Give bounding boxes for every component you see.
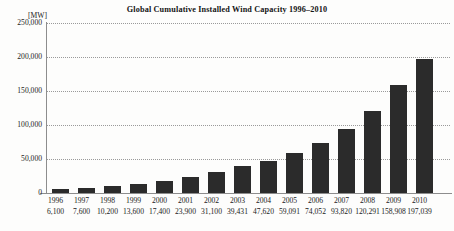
- bar: [390, 85, 407, 193]
- x-axis-category: 200339,431: [224, 195, 251, 217]
- x-axis-category: 2009158,908: [380, 195, 407, 217]
- bar: [234, 166, 251, 193]
- x-axis-year-label: 2004: [250, 195, 277, 206]
- x-axis-year-label: 1996: [42, 195, 69, 206]
- x-axis-year-label: 1998: [94, 195, 121, 206]
- x-axis-year-label: 2005: [276, 195, 303, 206]
- x-axis-labels: 19966,10019977,600199810,200199913,60020…: [47, 195, 450, 229]
- bar: [208, 172, 225, 193]
- x-axis-category: 200231,100: [198, 195, 225, 217]
- x-axis-line: [40, 193, 452, 194]
- x-axis-category: 2008120,291: [354, 195, 381, 217]
- x-axis-year-label: 1999: [120, 195, 147, 206]
- x-axis-value-label: 23,900: [172, 206, 199, 217]
- bar: [182, 177, 199, 193]
- x-axis-value-label: 93,820: [328, 206, 355, 217]
- x-axis-value-label: 13,600: [120, 206, 147, 217]
- x-axis-year-label: 2010: [406, 195, 433, 206]
- bar: [78, 188, 95, 193]
- x-axis-year-label: 2002: [198, 195, 225, 206]
- x-axis-value-label: 17,400: [146, 206, 173, 217]
- y-axis-tick-label: 50,000: [0, 155, 42, 163]
- x-axis-value-label: 10,200: [94, 206, 121, 217]
- x-axis-category: 200674,052: [302, 195, 329, 217]
- x-axis-category: 200017,400: [146, 195, 173, 217]
- x-axis-value-label: 197,039: [406, 206, 433, 217]
- x-axis-category: 199913,600: [120, 195, 147, 217]
- x-axis-value-label: 158,908: [380, 206, 407, 217]
- x-axis-year-label: 2007: [328, 195, 355, 206]
- x-axis-category: 19966,100: [42, 195, 69, 217]
- bar: [364, 111, 381, 193]
- x-axis-value-label: 31,100: [198, 206, 225, 217]
- y-axis-tick-label: 150,000: [0, 87, 42, 95]
- x-axis-category: 200123,900: [172, 195, 199, 217]
- bar: [156, 181, 173, 193]
- chart-page: Global Cumulative Installed Wind Capacit…: [0, 0, 454, 231]
- y-axis-tick-label: 250,000: [0, 19, 42, 27]
- bar: [286, 153, 303, 193]
- x-axis-year-label: 2000: [146, 195, 173, 206]
- x-axis-category: 200793,820: [328, 195, 355, 217]
- x-axis-value-label: 7,600: [68, 206, 95, 217]
- x-axis-year-label: 2001: [172, 195, 199, 206]
- x-axis-year-label: 2003: [224, 195, 251, 206]
- bar: [260, 161, 277, 193]
- x-axis-year-label: 1997: [68, 195, 95, 206]
- bar: [104, 186, 121, 193]
- x-axis-year-label: 2009: [380, 195, 407, 206]
- x-axis-category: 200559,091: [276, 195, 303, 217]
- chart-title: Global Cumulative Installed Wind Capacit…: [0, 5, 454, 14]
- y-axis-tick-label: 100,000: [0, 121, 42, 129]
- x-axis-category: 200447,620: [250, 195, 277, 217]
- bar: [338, 129, 355, 193]
- bar: [312, 143, 329, 193]
- x-axis-year-label: 2006: [302, 195, 329, 206]
- x-axis-value-label: 120,291: [354, 206, 381, 217]
- x-axis-category: 199810,200: [94, 195, 121, 217]
- x-axis-category: 19977,600: [68, 195, 95, 217]
- bar: [416, 59, 433, 193]
- bar: [52, 189, 69, 193]
- x-axis-year-label: 2008: [354, 195, 381, 206]
- x-axis-value-label: 6,100: [42, 206, 69, 217]
- x-axis-value-label: 47,620: [250, 206, 277, 217]
- y-axis-tick-label: 0: [0, 189, 42, 197]
- bars-layer: [47, 23, 450, 193]
- x-axis-value-label: 39,431: [224, 206, 251, 217]
- x-axis-value-label: 59,091: [276, 206, 303, 217]
- x-axis-value-label: 74,052: [302, 206, 329, 217]
- y-axis-tick-label: 200,000: [0, 53, 42, 61]
- bar: [130, 184, 147, 193]
- x-axis-category: 2010197,039: [406, 195, 433, 217]
